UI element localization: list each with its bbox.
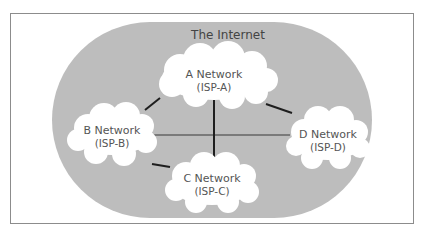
cloud-b-isp: (ISP-B) bbox=[95, 137, 130, 149]
internet-title: The Internet bbox=[190, 28, 265, 42]
network-diagram: The Internet A Network (ISP-A) B Network… bbox=[0, 0, 425, 238]
cloud-d-isp: (ISP-D) bbox=[310, 141, 346, 153]
cloud-a-isp: (ISP-A) bbox=[197, 81, 232, 93]
cloud-d-name: D Network bbox=[299, 128, 358, 141]
cloud-c-name: C Network bbox=[183, 172, 241, 185]
cloud-b-name: B Network bbox=[84, 124, 142, 137]
cloud-a-name: A Network bbox=[186, 68, 244, 81]
cloud-c-isp: (ISP-C) bbox=[194, 185, 229, 197]
